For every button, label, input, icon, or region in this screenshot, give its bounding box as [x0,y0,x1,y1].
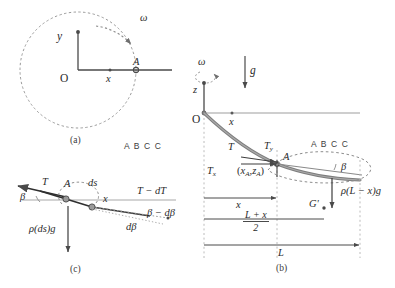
middle-abcc-label: A B C C [124,142,162,151]
panel-b-x-tick [231,112,234,115]
panel-b-abcc-label: A B C C [311,140,349,149]
dim-x-label: x [236,200,241,211]
panel-a-caption: (a) [70,136,81,146]
panel-b-z-axis-label: z [193,85,197,96]
tension-x-label: Tx [207,166,216,178]
panel-a-x-tick [109,69,112,72]
tension-y-label: Ty [264,141,273,153]
dim-mid-label: L + x 2 [243,209,269,233]
tension-component-arrow [241,157,276,162]
panel-a-origin-label: O [60,73,68,85]
panel-c-beta-arc [36,196,40,202]
ds-label: ds [88,178,97,189]
panel-c-beta-label: β [20,192,25,203]
coord-close-paren: ) [261,165,265,176]
panel-b-beta-label: β [341,162,346,173]
panel-c-tension-label: T [42,177,48,188]
panel-a-omega-label: ω [140,13,147,24]
panel-a-graphics [20,12,172,128]
panel-c-x-label: x [103,194,108,205]
panel-b-x-axis-label: x [229,117,234,128]
panel-a-omega-arc [96,26,131,44]
panel-b-weight-label: ρ(L − x)g [341,186,381,197]
dim-L-label: L [278,248,284,259]
panel-c-point-a [63,196,69,202]
panel-a-y-axis-label: y [57,31,62,43]
tension-x-subscript: x [213,170,216,178]
panel-c-weight-label: ρ(ds)g [29,224,56,235]
panel-c-beta-out-label: β − dβ [147,208,175,219]
centroid-point [322,206,325,209]
panel-b-coordinate-label: (xA,zA) [237,166,264,178]
tension-y-subscript: y [270,145,273,153]
panel-a-x-axis-label: x [106,74,111,85]
dim-mid-fraction: L + x 2 [243,209,269,233]
panel-b-omega-arc [195,72,215,83]
panel-c-tension-out-label: T − dT [137,186,166,197]
panel-b-omega-label: ω [198,57,205,68]
gravity-label: g [250,65,256,77]
figure-canvas: y x O A ω (a) A B C C ω g z O x T Ty Tx … [0,0,395,288]
panel-b-origin-label: O [192,114,200,126]
panel-c-point-a-label: A [64,179,70,190]
panel-b-point-a-label: A [283,152,289,163]
panel-b-caption: (b) [276,264,287,274]
centroid-label: G' [309,199,319,210]
dim-mid-denominator: 2 [243,222,269,234]
panel-c-caption: (c) [70,265,81,275]
panel-a-point-a-label: A [133,57,139,68]
dim-mid-numerator: L + x [243,209,269,222]
beta-arc [334,164,336,170]
dbeta-label: dβ [126,222,136,233]
panel-b-tension-label: T [228,142,234,153]
